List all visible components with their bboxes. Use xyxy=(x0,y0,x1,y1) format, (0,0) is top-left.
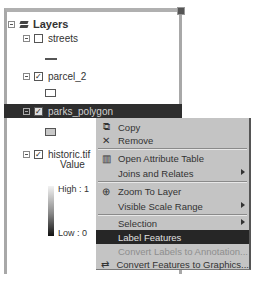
layer-context-menu: ⧉ Copy ✕ Remove ▥ Open Attribute Table J… xyxy=(96,118,251,270)
collapse-icon[interactable] xyxy=(23,108,30,115)
line-symbol-icon xyxy=(45,58,57,60)
submenu-arrow-icon xyxy=(241,169,245,175)
layer-visibility-checkbox[interactable] xyxy=(34,34,43,43)
zoom-to-layer-icon: ⊕ xyxy=(98,186,114,197)
layers-icon xyxy=(19,20,29,29)
menu-item-remove[interactable]: ✕ Remove xyxy=(96,133,249,147)
menu-item-zoom-to-layer[interactable]: ⊕ Zoom To Layer xyxy=(96,184,249,198)
toc-layer-parks-polygon-selected[interactable]: ✓ parks_polygon xyxy=(4,104,182,118)
collapse-icon[interactable] xyxy=(23,73,30,80)
legend-high-label: High : 1 xyxy=(58,184,89,194)
menu-item-visible-scale-range[interactable]: Visible Scale Range xyxy=(96,199,249,213)
menu-item-copy[interactable]: ⧉ Copy xyxy=(96,120,249,134)
menu-item-convert-labels-to-annotation[interactable]: Convert Labels to Annotation... xyxy=(96,244,249,258)
submenu-arrow-icon xyxy=(241,202,245,208)
toc-layer-streets[interactable]: streets xyxy=(23,32,78,44)
hollow-polygon-symbol-icon xyxy=(45,89,56,97)
menu-item-label-features[interactable]: Label Features xyxy=(96,230,249,244)
toc-root-title: Layers xyxy=(33,18,68,30)
menu-item-selection[interactable]: Selection xyxy=(96,216,249,230)
table-icon: ▥ xyxy=(98,153,114,164)
copy-icon: ⧉ xyxy=(98,121,114,133)
raster-color-ramp xyxy=(48,186,54,236)
legend-field-label: Value xyxy=(60,159,85,170)
layer-name: parcel_2 xyxy=(48,71,86,82)
legend-low-label: Low : 0 xyxy=(58,228,87,238)
layer-visibility-checkbox[interactable]: ✓ xyxy=(34,72,43,81)
toc-root-layers[interactable]: Layers xyxy=(8,18,68,30)
collapse-icon[interactable] xyxy=(8,21,15,28)
filled-polygon-symbol-icon xyxy=(45,128,56,136)
menu-item-joins-and-relates[interactable]: Joins and Relates xyxy=(96,166,249,180)
menu-separator xyxy=(98,181,247,183)
layer-name: parks_polygon xyxy=(48,106,113,117)
layer-name: historic.tif xyxy=(48,149,90,160)
collapse-icon[interactable] xyxy=(23,151,30,158)
menu-item-open-attribute-table[interactable]: ▥ Open Attribute Table xyxy=(96,151,249,165)
panel-close-button[interactable] xyxy=(177,7,185,15)
layer-name: streets xyxy=(48,33,78,44)
menu-separator xyxy=(98,148,247,150)
menu-item-convert-features-to-graphics[interactable]: ⇄ Convert Features to Graphics... xyxy=(96,257,249,271)
layer-visibility-checkbox[interactable]: ✓ xyxy=(34,107,43,116)
collapse-icon[interactable] xyxy=(23,35,30,42)
remove-icon: ✕ xyxy=(98,135,114,146)
toc-layer-parcel-2[interactable]: ✓ parcel_2 xyxy=(23,70,86,82)
submenu-arrow-icon xyxy=(241,219,245,225)
layer-visibility-checkbox[interactable]: ✓ xyxy=(34,150,43,159)
convert-graphics-icon: ⇄ xyxy=(98,259,112,270)
